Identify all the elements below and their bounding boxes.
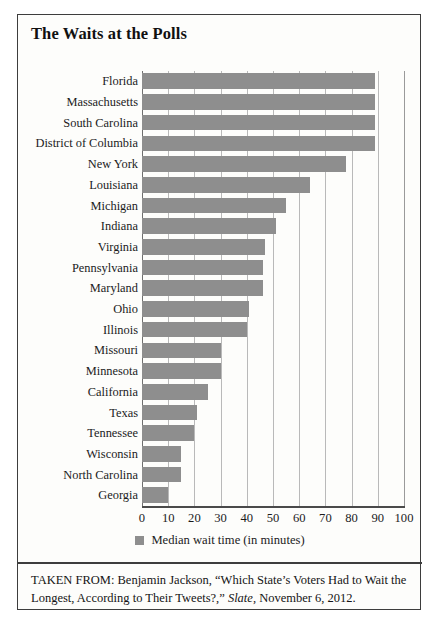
- category-label: Illinois: [103, 324, 138, 336]
- bar: [142, 301, 249, 317]
- category-label: Maryland: [90, 282, 138, 294]
- category-label: Louisiana: [89, 179, 138, 191]
- bar: [142, 487, 168, 503]
- bar-track: [142, 154, 404, 175]
- legend-label: Median wait time (in minutes): [151, 533, 304, 548]
- bar-row: Louisiana: [18, 175, 422, 196]
- bar-track: [142, 423, 404, 444]
- bar: [142, 405, 197, 421]
- bar-track: [142, 237, 404, 258]
- legend-swatch-icon: [135, 536, 144, 545]
- bar: [142, 467, 181, 483]
- bar: [142, 94, 375, 110]
- x-tick-label: 40: [241, 511, 254, 526]
- bar-row: Maryland: [18, 278, 422, 299]
- figure-frame: The Waits at the Polls FloridaMassachuse…: [17, 14, 421, 610]
- x-tick-label: 50: [267, 511, 280, 526]
- category-label: District of Columbia: [35, 137, 138, 149]
- category-label: Pennsylvania: [72, 261, 138, 273]
- bar-row: Tennessee: [18, 423, 422, 444]
- category-label: Texas: [109, 406, 138, 418]
- bar: [142, 177, 310, 193]
- bar-row: South Carolina: [18, 112, 422, 133]
- bar-row: Illinois: [18, 319, 422, 340]
- bar: [142, 136, 375, 152]
- category-label: Virginia: [98, 241, 138, 253]
- bar: [142, 218, 276, 234]
- bar-row: Wisconsin: [18, 444, 422, 465]
- category-label: New York: [88, 158, 138, 170]
- chart-title: The Waits at the Polls: [31, 24, 187, 44]
- bar-row: Virginia: [18, 237, 422, 258]
- bar: [142, 384, 208, 400]
- bar-track: [142, 382, 404, 403]
- caption-suffix: , November 6, 2012.: [253, 591, 356, 605]
- bar-row: Missouri: [18, 340, 422, 361]
- bar-row: Texas: [18, 402, 422, 423]
- bar-track: [142, 92, 404, 113]
- category-label: Ohio: [113, 303, 138, 315]
- category-label: Minnesota: [86, 365, 138, 377]
- x-tick-label: 0: [139, 511, 145, 526]
- bar-row: Indiana: [18, 216, 422, 237]
- bar-row: District of Columbia: [18, 133, 422, 154]
- bar-row: Ohio: [18, 299, 422, 320]
- bar-row: Pennsylvania: [18, 257, 422, 278]
- bar-track: [142, 257, 404, 278]
- bar: [142, 322, 247, 338]
- bar: [142, 363, 221, 379]
- x-tick-label: 60: [293, 511, 306, 526]
- bar: [142, 239, 265, 255]
- bar-row: California: [18, 382, 422, 403]
- bar: [142, 446, 181, 462]
- bar-track: [142, 71, 404, 92]
- bar-track: [142, 278, 404, 299]
- category-label: California: [88, 386, 138, 398]
- bar-row: Massachusetts: [18, 92, 422, 113]
- bar-track: [142, 299, 404, 320]
- category-label: North Carolina: [63, 469, 138, 481]
- bar-row: Minnesota: [18, 361, 422, 382]
- bar-track: [142, 340, 404, 361]
- bar-row: Michigan: [18, 195, 422, 216]
- bar-row: North Carolina: [18, 464, 422, 485]
- category-label: Missouri: [94, 344, 138, 356]
- bar: [142, 73, 375, 89]
- bar-track: [142, 112, 404, 133]
- category-label: Massachusetts: [66, 96, 138, 108]
- bar-track: [142, 133, 404, 154]
- bar-row: New York: [18, 154, 422, 175]
- category-label: Georgia: [98, 489, 138, 501]
- x-tick-label: 30: [214, 511, 227, 526]
- chart-legend: Median wait time (in minutes): [18, 533, 422, 548]
- category-label: Michigan: [91, 199, 139, 211]
- bar: [142, 115, 375, 131]
- bar: [142, 260, 263, 276]
- bar: [142, 425, 194, 441]
- category-label: Florida: [102, 75, 138, 87]
- bar-row: Florida: [18, 71, 422, 92]
- bar-track: [142, 175, 404, 196]
- bar-rows: FloridaMassachusettsSouth CarolinaDistri…: [18, 71, 422, 506]
- bar-track: [142, 319, 404, 340]
- x-tick-label: 80: [345, 511, 358, 526]
- bar-track: [142, 216, 404, 237]
- bar-track: [142, 361, 404, 382]
- bar-track: [142, 444, 404, 465]
- source-caption: TAKEN FROM: Benjamin Jackson, “Which Sta…: [31, 571, 409, 607]
- bar-row: Georgia: [18, 485, 422, 506]
- category-label: Wisconsin: [86, 448, 138, 460]
- category-label: Indiana: [101, 220, 138, 232]
- x-tick-label: 100: [395, 511, 414, 526]
- x-axis-line: [142, 506, 405, 508]
- bar: [142, 343, 221, 359]
- x-tick-label: 90: [372, 511, 385, 526]
- caption-source-title: Slate: [228, 591, 253, 605]
- bar-track: [142, 402, 404, 423]
- bar: [142, 280, 263, 296]
- bar-chart-plot: FloridaMassachusettsSouth CarolinaDistri…: [18, 57, 422, 513]
- x-axis-tick-labels: 0102030405060708090100: [142, 509, 404, 531]
- bar-track: [142, 485, 404, 506]
- category-label: Tennessee: [87, 427, 138, 439]
- bar: [142, 198, 286, 214]
